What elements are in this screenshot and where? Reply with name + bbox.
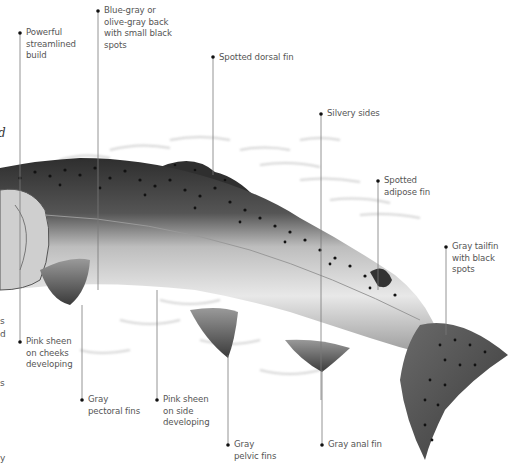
label-anal-fin: Gray anal fin xyxy=(328,439,382,451)
fish-artwork xyxy=(0,0,519,469)
label-pectoral-fins: Gray pectoral fins xyxy=(88,394,140,417)
label-silvery-sides: Silvery sides xyxy=(327,108,380,120)
label-back-color: Blue-gray or olive-gray back with small … xyxy=(104,5,172,51)
label-pelvic-fins: Gray pelvic fins xyxy=(234,439,276,462)
edge-text-fragment: d xyxy=(0,329,6,339)
anal-fin xyxy=(285,340,350,372)
label-dorsal-fin: Spotted dorsal fin xyxy=(219,52,294,64)
tail-fin xyxy=(400,323,508,460)
salmon-illustration: Powerful streamlined build Blue-gray or … xyxy=(0,0,519,469)
label-tailfin: Gray tailfin with black spots xyxy=(452,241,519,276)
edge-text-fragment: s xyxy=(0,378,5,388)
label-adipose-fin: Spotted adipose fin xyxy=(384,175,430,198)
label-powerful-build: Powerful streamlined build xyxy=(26,27,76,62)
edge-text-fragment: s xyxy=(0,316,5,326)
label-pink-cheeks: Pink sheen on cheeks developing xyxy=(26,336,73,371)
gill-cover xyxy=(0,189,49,290)
edge-text-fragment: d xyxy=(0,126,6,140)
label-pink-side: Pink sheen on side developing xyxy=(163,394,210,429)
edge-text-fragment: y xyxy=(0,453,5,463)
pelvic-fin xyxy=(190,308,238,358)
